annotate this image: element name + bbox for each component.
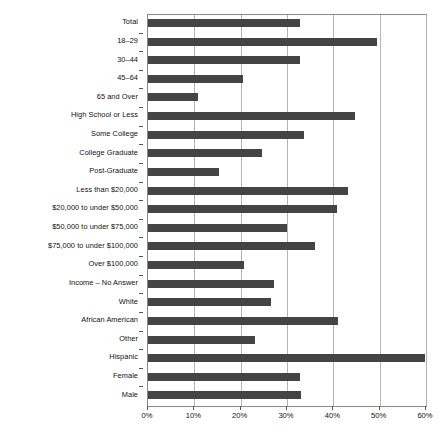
category-tick — [139, 182, 143, 183]
bar-row — [148, 127, 426, 146]
category-tick — [139, 349, 143, 350]
category-label: 30–44 — [0, 56, 138, 64]
category-tick — [139, 107, 143, 108]
x-axis-label: 60% — [417, 411, 432, 420]
bar — [148, 391, 301, 399]
category-label: Some College — [0, 130, 138, 138]
x-axis-label: 40% — [325, 411, 340, 420]
category-label: $75,000 to under $100,000 — [0, 242, 138, 250]
x-axis-label: 50% — [371, 411, 386, 420]
x-axis-tick — [379, 406, 380, 410]
bar-row — [148, 332, 426, 351]
bar-row — [148, 89, 426, 108]
category-label: College Graduate — [0, 149, 138, 157]
category-tick — [139, 70, 143, 71]
category-tick — [139, 88, 143, 89]
bar-row — [148, 369, 426, 388]
bar-row — [148, 71, 426, 90]
bar-row — [148, 387, 426, 406]
category-tick — [139, 200, 143, 201]
bar — [148, 75, 243, 83]
bar — [148, 336, 255, 344]
x-axis-tick — [425, 406, 426, 410]
category-label: Income – No Answer — [0, 279, 138, 287]
bar — [148, 317, 338, 325]
bar-row — [148, 15, 426, 34]
bar — [148, 354, 425, 362]
x-axis-tick — [147, 406, 148, 410]
category-tick — [139, 275, 143, 276]
bar-row — [148, 164, 426, 183]
bar — [148, 168, 219, 176]
x-axis-tick — [240, 406, 241, 410]
bar-row — [148, 257, 426, 276]
category-tick — [139, 51, 143, 52]
category-tick — [139, 293, 143, 294]
bar — [148, 19, 300, 27]
gridline — [426, 15, 427, 406]
bar — [148, 205, 337, 213]
category-label: Other — [0, 335, 138, 343]
category-label: 65 and Over — [0, 93, 138, 101]
bar — [148, 93, 198, 101]
bar — [148, 242, 315, 250]
bar-row — [148, 52, 426, 71]
bar-row — [148, 145, 426, 164]
bar-row — [148, 183, 426, 202]
category-tick — [139, 33, 143, 34]
category-tick — [139, 386, 143, 387]
bar — [148, 261, 244, 269]
bar-row — [148, 34, 426, 53]
category-tick — [139, 312, 143, 313]
x-axis-tick — [332, 406, 333, 410]
category-label: 45–64 — [0, 74, 138, 82]
bar-row — [148, 294, 426, 313]
x-axis-tick — [286, 406, 287, 410]
category-label: $50,000 to under $75,000 — [0, 223, 138, 231]
category-label: African American — [0, 316, 138, 324]
category-label: Hispanic — [0, 353, 138, 361]
bar — [148, 112, 355, 120]
category-label: $20,000 to under $50,000 — [0, 204, 138, 212]
category-label: Over $100,000 — [0, 260, 138, 268]
bar — [148, 187, 348, 195]
category-tick — [139, 331, 143, 332]
category-tick — [139, 219, 143, 220]
bar-row — [148, 238, 426, 257]
category-axis: Total18–2930–4445–6465 and OverHigh Scho… — [0, 14, 143, 405]
x-axis-tick — [193, 406, 194, 410]
bar-row — [148, 350, 426, 369]
category-label: Female — [0, 372, 138, 380]
x-axis-label: 0% — [142, 411, 153, 420]
bar-row — [148, 220, 426, 239]
x-axis-label: 30% — [278, 411, 293, 420]
x-axis-label: 10% — [186, 411, 201, 420]
category-label: Post-Graduate — [0, 167, 138, 175]
category-tick — [139, 256, 143, 257]
category-label: White — [0, 298, 138, 306]
category-tick — [139, 163, 143, 164]
category-label: Male — [0, 391, 138, 399]
bar — [148, 56, 300, 64]
category-tick — [139, 368, 143, 369]
bar — [148, 38, 377, 46]
bar-row — [148, 201, 426, 220]
value-axis: 0%10%20%30%40%50%60% — [147, 406, 426, 430]
category-tick — [139, 126, 143, 127]
bar-chart: Total18–2930–4445–6465 and OverHigh Scho… — [0, 0, 438, 434]
category-label: Less than $20,000 — [0, 186, 138, 194]
category-label: High School or Less — [0, 111, 138, 119]
bar — [148, 131, 304, 139]
bar — [148, 373, 300, 381]
bar — [148, 280, 274, 288]
category-label: 18–29 — [0, 37, 138, 45]
bar — [148, 149, 262, 157]
bar-row — [148, 276, 426, 295]
bar — [148, 298, 271, 306]
category-tick — [139, 144, 143, 145]
category-label: Total — [0, 18, 138, 26]
bar-row — [148, 108, 426, 127]
x-axis-label: 20% — [232, 411, 247, 420]
plot-area — [147, 14, 427, 407]
category-tick — [139, 237, 143, 238]
